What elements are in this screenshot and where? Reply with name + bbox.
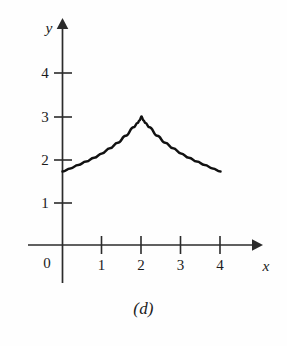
x-axis-arrow-icon — [252, 239, 263, 251]
cusp-curve — [63, 117, 221, 172]
y-tick-label-2: 2 — [41, 152, 49, 168]
x-axis-label: x — [262, 257, 270, 274]
y-axis-arrow-icon — [57, 18, 69, 29]
y-tick-label-4: 4 — [41, 65, 49, 81]
x-tick-label-1: 1 — [98, 257, 106, 273]
figure-panel: 0 1 2 3 4 1 2 3 4 y x (d) — [0, 0, 287, 346]
figure-caption: (d) — [0, 299, 287, 319]
y-tick-label-3: 3 — [41, 109, 49, 125]
x-tick-label-3: 3 — [177, 257, 185, 273]
graph-canvas: 0 1 2 3 4 1 2 3 4 y x — [0, 0, 287, 346]
y-tick-label-1: 1 — [41, 195, 49, 211]
origin-label: 0 — [43, 255, 51, 271]
y-axis-label: y — [44, 19, 53, 36]
x-tick-label-2: 2 — [137, 257, 145, 273]
x-tick-label-4: 4 — [216, 257, 224, 273]
